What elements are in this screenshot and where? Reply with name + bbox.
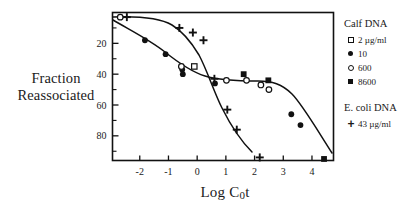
legend-marker-shape [348, 65, 354, 71]
legend-marker-open-square-icon [344, 34, 358, 46]
legend-group-title: E. coli DNA [344, 102, 409, 113]
legend-marker-plus-icon: + [344, 118, 358, 130]
y-axis-label-line1: Fraction [8, 70, 104, 87]
legend-group-spacer [344, 90, 409, 102]
legend-marker-open-circle-icon [344, 62, 358, 74]
y-axis-label-line2: Reassociated [8, 87, 104, 104]
legend-entry-label: 10 [358, 48, 367, 60]
legend-entry-label: 600 [358, 62, 372, 74]
data-point-filled-square [321, 156, 327, 162]
data-point-open-circle [224, 78, 230, 84]
data-point-open-circle [117, 14, 123, 20]
legend-marker-shape [348, 51, 353, 56]
x-axis-label-pre: Log C [201, 184, 240, 200]
legend-marker-shape [348, 79, 353, 84]
x-tick-label: 1 [223, 166, 228, 177]
x-tick-label: 3 [281, 166, 286, 177]
x-tick-label: 0 [195, 166, 200, 177]
data-point-open-circle [258, 82, 264, 88]
legend-entry-label: 8600 [358, 76, 376, 88]
x-tick-label: 4 [309, 166, 314, 177]
legend-entry[interactable]: 2 µg/ml [344, 34, 409, 46]
x-axis-label: Log C0t [150, 184, 300, 201]
y-tick-label: 20 [97, 38, 107, 49]
chart-legend: Calf DNA2 µg/ml106008600E. coli DNA+43 µ… [344, 18, 409, 132]
data-point-open-square [192, 64, 197, 69]
x-tick-label: -1 [164, 166, 172, 177]
data-point-open-circle [179, 64, 185, 70]
legend-group-title: Calf DNA [344, 18, 409, 29]
legend-entry[interactable]: 8600 [344, 76, 409, 88]
y-tick-label: 80 [97, 130, 107, 141]
legend-marker-filled-square-icon [344, 76, 358, 88]
data-point-filled-circle [163, 51, 169, 57]
y-axis-label: Fraction Reassociated [8, 70, 104, 104]
legend-marker-shape [348, 37, 354, 43]
data-point-filled-circle [142, 37, 148, 43]
data-point-filled-square [265, 77, 271, 83]
legend-entry-label: 2 µg/ml [358, 34, 386, 46]
x-axis-label-post: t [245, 184, 249, 200]
data-point-filled-square [241, 71, 247, 77]
legend-entry[interactable]: +43 µg/ml [344, 118, 409, 130]
data-point-open-circle [244, 78, 250, 84]
data-point-filled-circle [298, 122, 304, 128]
x-tick-label: 2 [252, 166, 257, 177]
data-point-filled-circle [288, 111, 294, 117]
x-tick-label: -2 [136, 166, 144, 177]
legend-marker-filled-circle-icon [344, 48, 358, 60]
legend-entry[interactable]: 10 [344, 48, 409, 60]
legend-entry[interactable]: 600 [344, 62, 409, 74]
data-point-filled-circle [180, 71, 186, 77]
data-point-open-circle [266, 87, 272, 93]
legend-entry-label: 43 µg/ml [358, 118, 391, 130]
